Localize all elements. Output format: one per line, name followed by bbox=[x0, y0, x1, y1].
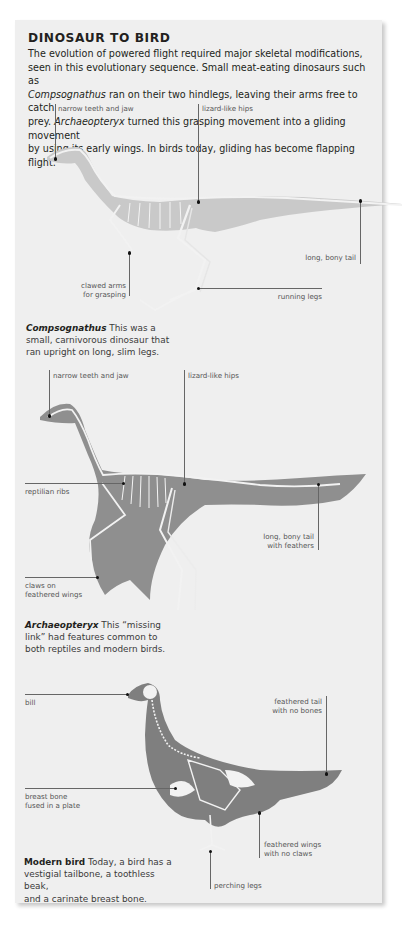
pointer-dot bbox=[128, 251, 132, 255]
label-archaeopteryx-claws: claws on feathered wings bbox=[25, 581, 82, 599]
label-compsognathus-tail: long, bony tail bbox=[300, 253, 356, 262]
label-modern-bird-legs: perching legs bbox=[214, 881, 262, 890]
leader-line bbox=[55, 104, 56, 158]
pointer-dot bbox=[197, 200, 201, 204]
label-modern-bird-bill: bill bbox=[25, 698, 35, 707]
caption-compsognathus: Compsognathus This was a small, carnivor… bbox=[26, 322, 176, 359]
pointer-dot bbox=[174, 787, 178, 791]
label-archaeopteryx-hips: lizard-like hips bbox=[188, 371, 239, 380]
label-compsognathus-hips: lizard-like hips bbox=[202, 104, 253, 113]
label-compsognathus-arms: clawed arms for grasping bbox=[75, 281, 126, 299]
leader-line bbox=[198, 104, 199, 201]
pointer-dot bbox=[54, 157, 58, 161]
label-archaeopteryx-jaw: narrow teeth and jaw bbox=[53, 371, 129, 380]
label-archaeopteryx-tail: long, bony tail with feathers bbox=[250, 532, 314, 550]
pointer-dot bbox=[126, 693, 130, 697]
label-modern-bird-tail: feathered tail with no bones bbox=[255, 697, 322, 715]
leader-line bbox=[49, 370, 50, 418]
label-compsognathus-jaw: narrow teeth and jaw bbox=[58, 104, 134, 113]
pointer-dot bbox=[325, 772, 329, 776]
caption-archaeopteryx: Archaeopteryx This “missing link” had fe… bbox=[25, 619, 175, 656]
species-name: Modern bird bbox=[24, 857, 85, 867]
leader-line bbox=[129, 252, 130, 296]
leader-line bbox=[318, 484, 319, 550]
pointer-dot bbox=[197, 287, 201, 291]
leader-line bbox=[25, 694, 127, 695]
leader-line bbox=[326, 696, 327, 774]
species-name: Archaeopteryx bbox=[25, 620, 98, 630]
species-name: Compsognathus bbox=[26, 323, 106, 333]
pointer-dot bbox=[359, 199, 363, 203]
leader-line bbox=[259, 813, 260, 858]
label-compsognathus-legs: running legs bbox=[270, 292, 322, 301]
label-modern-bird-breast: breast bone fused in a plate bbox=[25, 792, 80, 810]
leader-line bbox=[198, 288, 322, 289]
pointer-dot bbox=[183, 482, 187, 486]
pointer-dot bbox=[258, 811, 262, 815]
label-archaeopteryx-ribs: reptilian ribs bbox=[25, 487, 70, 496]
leader-line bbox=[360, 200, 361, 264]
caption-modern-bird: Modern bird Today, a bird has a vestigia… bbox=[24, 856, 174, 905]
label-modern-bird-wings: feathered wings with no claws bbox=[264, 840, 321, 858]
pointer-dot bbox=[96, 576, 100, 580]
leader-line bbox=[25, 483, 123, 484]
pointer-dot bbox=[317, 483, 321, 487]
pointer-dot bbox=[209, 850, 213, 854]
pointer-dot bbox=[122, 482, 126, 486]
leader-line bbox=[184, 370, 185, 484]
pointer-dot bbox=[48, 414, 52, 418]
leader-line bbox=[25, 577, 97, 578]
leader-line bbox=[25, 788, 175, 789]
leader-line bbox=[210, 851, 211, 889]
